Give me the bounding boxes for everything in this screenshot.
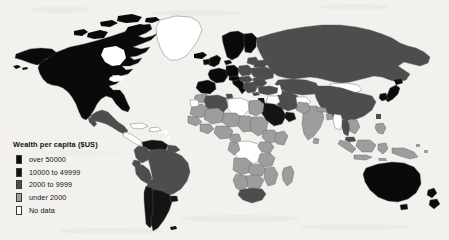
region-myanmar <box>333 114 343 130</box>
region-united-kingdom <box>208 55 221 67</box>
region-philippines <box>375 123 386 134</box>
map-legend: Wealth per capita ($US) over 50000 10000… <box>13 140 133 216</box>
region-mozambique <box>264 167 278 186</box>
legend-swatch-over-50000 <box>16 155 22 164</box>
region-tasmania <box>400 204 408 210</box>
region-somalia <box>275 131 288 145</box>
legend-item-no-data: No data <box>13 204 133 217</box>
region-vietnam-laos-cambodia <box>349 119 360 134</box>
region-new-zealand <box>427 188 440 209</box>
region-hispaniola <box>149 127 161 132</box>
region-falklands <box>170 226 177 230</box>
region-argentina <box>151 189 172 231</box>
region-arctic-islet-b <box>145 17 160 23</box>
region-papua-new-guinea <box>392 148 418 159</box>
region-uruguay <box>170 196 178 202</box>
region-sulawesi <box>378 143 388 154</box>
region-banks-island <box>74 29 88 36</box>
legend-label-under-2000: under 2000 <box>29 193 66 202</box>
world-wealth-map-figure: .c50 { fill:#0a0a0a; } .c10 { fill:#1414… <box>0 0 449 240</box>
legend-swatch-under-2000 <box>16 193 22 202</box>
region-nigeria <box>214 126 233 139</box>
region-lesser-antilles <box>163 130 171 140</box>
region-mali <box>204 108 224 124</box>
region-borneo <box>356 140 376 152</box>
region-bangladesh <box>326 114 333 120</box>
region-baffin-island <box>125 24 148 36</box>
legend-item-under-2000: under 2000 <box>13 191 133 204</box>
legend-swatch-10000-to-49999 <box>16 168 22 177</box>
legend-label-2000-to-9999: 2000 to 9999 <box>29 180 72 189</box>
region-poland <box>238 65 252 76</box>
legend-swatch-no-data <box>16 206 22 215</box>
region-taiwan <box>376 114 381 119</box>
region-timor <box>378 158 387 161</box>
region-java <box>354 155 372 160</box>
region-egypt <box>249 100 264 116</box>
region-denmark <box>224 60 232 65</box>
region-western-sahara <box>190 100 199 107</box>
region-aleutians <box>13 65 28 70</box>
region-ellesmere-island <box>117 14 142 23</box>
legend-item-10000-to-49999: 10000 to 49999 <box>13 166 133 179</box>
legend-item-over-50000: over 50000 <box>13 154 133 167</box>
region-spain-portugal <box>196 80 216 94</box>
region-uae-oman <box>284 112 296 122</box>
region-australia <box>363 162 421 202</box>
region-malaysia <box>345 137 356 142</box>
region-greenland <box>156 16 202 60</box>
region-tunisia <box>226 94 233 99</box>
legend-label-10000-to-49999: 10000 to 49999 <box>29 168 80 177</box>
region-finland <box>244 33 257 53</box>
region-norway-sweden <box>222 31 246 60</box>
region-france <box>208 68 228 83</box>
region-cuba <box>130 123 148 129</box>
legend-item-2000-to-9999: 2000 to 9999 <box>13 179 133 192</box>
region-iceland <box>194 52 207 59</box>
region-thailand <box>342 120 350 136</box>
region-sri-lanka <box>313 138 319 144</box>
region-ireland <box>203 59 210 65</box>
legend-title: Wealth per capita ($US) <box>13 140 133 149</box>
legend-label-over-50000: over 50000 <box>29 155 66 164</box>
region-sumatra <box>338 140 356 153</box>
region-arctic-islet-a <box>100 20 118 27</box>
region-madagascar <box>282 166 294 186</box>
region-victoria-island <box>87 30 108 39</box>
region-nepal-bhutan <box>316 107 327 112</box>
region-russia <box>257 25 430 83</box>
region-ivory-coast-ghana <box>200 124 214 134</box>
legend-swatch-2000-to-9999 <box>16 180 22 189</box>
region-south-africa <box>238 188 266 203</box>
region-mexico <box>90 110 128 134</box>
region-pacific-islands <box>416 144 428 153</box>
legend-label-no-data: No data <box>29 206 55 215</box>
